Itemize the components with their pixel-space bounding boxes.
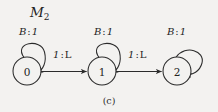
state-label-1: 1: [92, 66, 112, 78]
self-loop-label-state-0: B:1: [19, 27, 38, 37]
self-loop-2-output: 1: [180, 26, 186, 37]
self-loop-1-output: 1: [107, 26, 113, 37]
self-loop-label-state-2: B:1: [167, 27, 186, 37]
transition-0-1-output: L: [65, 49, 72, 60]
self-loop-0-output: 1: [32, 26, 38, 37]
figure-container: M2 B:1 B:1 B:1 1:L 1:L 0 1 2 (c): [0, 0, 218, 112]
transition-1-2-output: L: [140, 49, 147, 60]
transition-label-1-to-2: 1:L: [128, 50, 146, 60]
figure-caption: (c): [0, 96, 218, 106]
machine-title-subscript: 2: [44, 12, 50, 22]
state-label-2: 2: [167, 66, 187, 78]
state-label-0: 0: [17, 66, 37, 78]
machine-title: M2: [30, 6, 50, 22]
transition-label-0-to-1: 1:L: [53, 50, 71, 60]
self-loop-label-state-1: B:1: [94, 27, 113, 37]
machine-title-letter: M: [30, 4, 44, 20]
